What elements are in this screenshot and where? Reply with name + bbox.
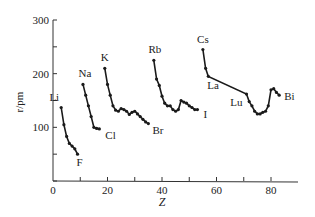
data-point — [259, 112, 262, 115]
data-point — [185, 102, 188, 105]
element-label-cs: Cs — [197, 33, 209, 45]
series-line — [61, 108, 77, 155]
element-label-cl: Cl — [105, 129, 115, 141]
data-point — [144, 120, 147, 123]
data-point — [267, 104, 270, 107]
element-label-na: Na — [79, 67, 92, 79]
x-axis-label: Z — [159, 195, 166, 209]
data-point — [70, 145, 73, 148]
data-point — [174, 110, 177, 113]
data-point — [166, 104, 169, 107]
y-axis-label: r/pm — [13, 91, 25, 112]
data-point — [60, 106, 63, 109]
data-point — [275, 91, 278, 94]
series-line — [83, 84, 99, 128]
y-tick-label: 200 — [33, 68, 50, 80]
data-point — [250, 104, 253, 107]
data-point — [158, 84, 161, 87]
data-point — [98, 127, 101, 130]
x-tick-label: 80 — [266, 184, 278, 196]
data-point — [147, 122, 150, 125]
data-point — [109, 94, 112, 97]
x-axis — [53, 181, 298, 182]
element-label-k: K — [101, 51, 109, 63]
data-point — [92, 126, 95, 129]
data-point — [128, 113, 131, 116]
data-point — [103, 67, 106, 70]
x-tick-label: 20 — [102, 184, 114, 196]
y-tick-label: 100 — [33, 121, 50, 133]
data-point — [95, 127, 98, 130]
data-point — [169, 104, 172, 107]
data-point — [73, 147, 76, 150]
data-point — [190, 106, 193, 109]
x-tick-label: 0 — [50, 184, 56, 196]
y-tick-label: 300 — [33, 14, 50, 26]
data-point — [248, 100, 251, 103]
data-point — [278, 94, 281, 97]
data-point — [139, 115, 142, 118]
data-point — [188, 104, 191, 107]
data-point — [87, 104, 90, 107]
data-point — [152, 59, 155, 62]
element-label-bi: Bi — [284, 90, 294, 102]
data-point — [130, 111, 133, 114]
data-point — [117, 110, 120, 113]
data-point — [90, 115, 93, 118]
data-point — [272, 87, 275, 90]
data-series — [60, 48, 281, 156]
data-point — [245, 92, 248, 95]
data-point — [114, 109, 117, 112]
data-point — [111, 104, 114, 107]
data-point — [84, 94, 87, 97]
data-point — [193, 108, 196, 111]
data-point — [196, 108, 199, 111]
chart-canvas: 100200300020406080 LiFNaClKBrRbICsLaLuBi… — [0, 0, 315, 217]
data-point — [182, 101, 185, 104]
data-point — [177, 108, 180, 111]
element-label-li: Li — [49, 91, 59, 103]
data-point — [261, 111, 264, 114]
element-label-br: Br — [152, 124, 163, 136]
data-point — [253, 110, 256, 113]
element-label-rb: Rb — [148, 43, 161, 55]
element-label-lu: Lu — [230, 96, 243, 108]
data-point — [207, 75, 210, 78]
element-label-i: I — [203, 108, 207, 120]
data-point — [201, 48, 204, 51]
axes: 100200300020406080 — [33, 14, 299, 196]
data-point — [120, 107, 123, 110]
data-point — [171, 108, 174, 111]
x-tick-label: 60 — [211, 184, 223, 196]
data-point — [163, 102, 166, 105]
data-point — [65, 135, 68, 138]
element-label-f: F — [76, 156, 82, 168]
data-point — [122, 108, 125, 111]
data-point — [125, 110, 128, 113]
data-point — [133, 110, 136, 113]
data-point — [160, 95, 163, 98]
atomic-radius-chart: 100200300020406080 LiFNaClKBrRbICsLaLuBi… — [0, 0, 315, 217]
data-point — [256, 112, 259, 115]
data-point — [62, 123, 65, 126]
element-labels: LiFNaClKBrRbICsLaLuBi — [49, 33, 294, 169]
data-point — [141, 118, 144, 121]
data-point — [155, 77, 158, 80]
data-point — [68, 142, 71, 145]
data-point — [269, 88, 272, 91]
data-point — [264, 110, 267, 113]
data-point — [81, 83, 84, 86]
data-point — [204, 67, 207, 70]
data-point — [136, 112, 139, 115]
data-point — [106, 83, 109, 86]
data-point — [179, 99, 182, 102]
element-label-la: La — [207, 79, 219, 91]
